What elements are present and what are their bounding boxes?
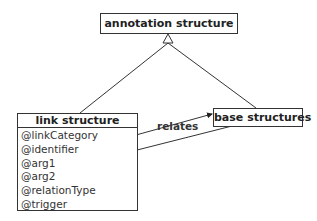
inheritance-triangle-icon: [163, 34, 173, 43]
attribute-trigger: @trigger: [21, 198, 137, 212]
link-structure-attributes: @linkCategory @identifier @arg1 @arg2 @r…: [18, 128, 137, 212]
base-structures-title: base structures: [214, 111, 311, 124]
link-structure-class: link structure @linkCategory @identifier…: [17, 113, 138, 211]
inheritance-line-link: [80, 43, 168, 113]
annotation-structure-title: annotation structure: [104, 17, 233, 30]
inheritance-line-base: [168, 43, 256, 108]
attribute-link-category: @linkCategory: [21, 129, 137, 143]
attribute-arg1: @arg1: [21, 157, 137, 171]
annotation-structure-class: annotation structure: [100, 13, 238, 34]
base-structures-class: base structures: [213, 108, 303, 127]
attribute-identifier: @identifier: [21, 143, 137, 157]
link-structure-title: link structure: [18, 114, 137, 128]
attribute-relation-type: @relationType: [21, 184, 137, 198]
attribute-arg2: @arg2: [21, 170, 137, 184]
relates-label: relates: [157, 120, 198, 132]
